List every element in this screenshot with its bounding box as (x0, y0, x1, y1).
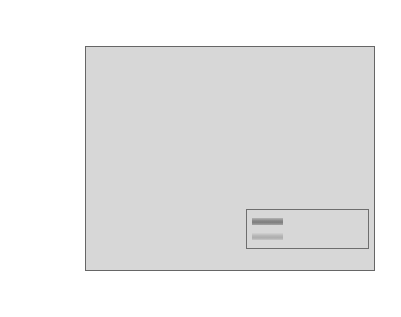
bottom-axis-tick-marks (85, 271, 375, 276)
dark-gray-bar-icon (252, 218, 283, 225)
category-axis-labels (0, 46, 82, 271)
legend-item-population (252, 229, 363, 244)
plot-area (85, 46, 375, 271)
top-axis-tick-labels (85, 26, 375, 38)
chart-figure (0, 0, 401, 317)
light-gray-bar-icon (252, 233, 283, 240)
legend-item-pollution (252, 214, 363, 229)
chart-legend (246, 209, 369, 249)
bottom-axis-tick-labels (85, 277, 375, 289)
